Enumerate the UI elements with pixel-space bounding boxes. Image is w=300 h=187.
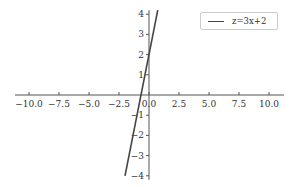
x-tick-label: 7.5 — [232, 99, 247, 109]
y-tick-label: −3 — [131, 151, 145, 161]
y-tick-label: 4 — [138, 9, 144, 19]
y-tick-label: −4 — [131, 171, 145, 181]
x-tick-label: −2.5 — [108, 99, 130, 109]
legend-label: z=3x+2 — [232, 16, 266, 26]
x-tick-label: −7.5 — [48, 99, 70, 109]
x-tick-label: 10.0 — [259, 99, 279, 109]
y-tick-label: 1 — [138, 70, 144, 80]
x-tick-label: 0.0 — [142, 99, 157, 109]
legend: z=3x+2 — [200, 12, 278, 30]
x-tick-label: −10.0 — [15, 99, 43, 109]
x-tick-label: 2.5 — [172, 99, 187, 109]
x-tick-label: −5.0 — [78, 99, 100, 109]
y-tick-label: 3 — [138, 29, 144, 39]
x-tick-label: 5.0 — [202, 99, 217, 109]
y-tick-label: 2 — [138, 50, 144, 60]
legend-line-swatch — [208, 21, 224, 22]
chart: −10.0−7.5−5.0−2.50.02.55.07.510.0−4−3−2−… — [0, 0, 300, 187]
